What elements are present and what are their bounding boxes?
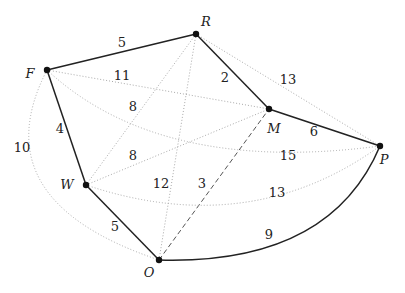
edge-weight-label: 13 — [269, 185, 286, 200]
node-label: R — [201, 14, 211, 29]
node-R — [193, 31, 199, 37]
node-O — [156, 257, 162, 263]
node-W — [83, 182, 89, 188]
node-label: F — [25, 66, 34, 81]
edge-weight-label: 11 — [114, 68, 131, 83]
edge-weight-label: 13 — [280, 72, 297, 87]
edge-weight-label: 6 — [310, 124, 318, 139]
node-label: M — [267, 121, 280, 136]
graph-canvas — [0, 0, 405, 293]
edge-weight-label: 4 — [56, 121, 64, 136]
edge-W-O — [86, 185, 159, 260]
edge-O-P — [159, 146, 380, 260]
edge-weight-label: 10 — [14, 140, 31, 155]
edge-F-P — [47, 70, 380, 152]
edge-M-P — [269, 109, 380, 146]
node-label: P — [380, 152, 389, 167]
edge-F-W — [47, 70, 86, 185]
node-label: W — [60, 177, 73, 192]
node-F — [44, 67, 50, 73]
edge-weight-label: 5 — [111, 219, 119, 234]
node-label: O — [144, 265, 155, 280]
edge-weight-label: 5 — [118, 35, 126, 50]
node-P — [377, 143, 383, 149]
edge-R-P — [196, 34, 380, 146]
edge-weight-label: 12 — [153, 176, 170, 191]
graph-diagram: 545269118812315131310FRMPWO — [0, 0, 405, 293]
edge-weight-label: 9 — [265, 227, 273, 242]
edge-weight-label: 2 — [221, 70, 229, 85]
edge-F-O — [29, 70, 159, 260]
edge-R-O — [159, 34, 196, 260]
edge-weight-label: 8 — [129, 148, 137, 163]
edge-weight-label: 3 — [198, 176, 206, 191]
edge-weight-label: 8 — [129, 99, 137, 114]
node-M — [266, 106, 272, 112]
edge-weight-label: 15 — [280, 148, 297, 163]
